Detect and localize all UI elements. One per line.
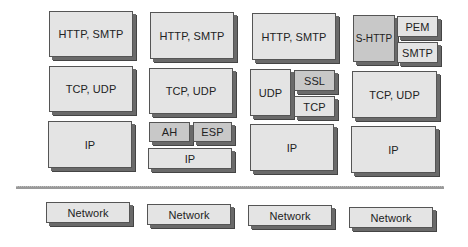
col2-transport-label: TCP, UDP xyxy=(166,85,217,97)
col3-network-layer: IP xyxy=(250,124,334,171)
col4-transport-layer: TCP, UDP xyxy=(352,71,437,118)
col4-link-layer: Network xyxy=(349,207,433,228)
col3-network-label: IP xyxy=(287,142,298,154)
col1-link-layer: Network xyxy=(46,202,130,223)
col2-link-label: Network xyxy=(168,209,209,221)
col1-transport-label: TCP, UDP xyxy=(66,83,117,95)
col3-application-label: HTTP, SMTP xyxy=(262,31,327,43)
col2-ah-label: AH xyxy=(162,126,177,138)
col3-tcp-label: TCP xyxy=(303,101,325,113)
col4-smtp-label: SMTP xyxy=(402,47,433,59)
col2-application-label: HTTP, SMTP xyxy=(160,30,225,42)
col4-link-label: Network xyxy=(370,212,411,224)
col4-pem-layer: PEM xyxy=(397,16,438,37)
col3-udp-layer: UDP xyxy=(250,69,291,116)
col3-link-layer: Network xyxy=(248,205,332,226)
col3-ssl-label: SSL xyxy=(304,75,325,87)
col4-shttp-layer: S-HTTP xyxy=(353,15,395,62)
col4-pem-label: PEM xyxy=(405,21,429,33)
col3-tcp-layer: TCP xyxy=(294,96,335,117)
col4-network-label: IP xyxy=(388,144,399,156)
col3-udp-label: UDP xyxy=(259,87,283,99)
col1-application-label: HTTP, SMTP xyxy=(59,28,124,40)
col1-network-label: IP xyxy=(85,139,96,151)
layer-divider-line xyxy=(16,186,444,189)
col3-application-layer: HTTP, SMTP xyxy=(252,13,336,60)
col4-transport-label: TCP, UDP xyxy=(369,89,420,101)
col3-link-label: Network xyxy=(269,210,310,222)
col2-ah-layer: AH xyxy=(149,122,190,142)
col4-shttp-label: S-HTTP xyxy=(356,33,393,44)
col2-application-layer: HTTP, SMTP xyxy=(150,12,234,59)
col2-network-layer: IP xyxy=(148,148,232,169)
col2-link-layer: Network xyxy=(147,204,231,225)
col1-network-layer: IP xyxy=(48,121,132,168)
col1-link-label: Network xyxy=(67,207,108,219)
col4-smtp-layer: SMTP xyxy=(397,42,438,63)
col2-esp-label: ESP xyxy=(201,126,223,138)
col2-network-label: IP xyxy=(185,153,196,165)
col3-ssl-layer: SSL xyxy=(294,70,335,91)
col2-transport-layer: TCP, UDP xyxy=(149,68,233,114)
col2-esp-layer: ESP xyxy=(193,122,232,142)
col1-application-layer: HTTP, SMTP xyxy=(49,11,133,57)
col1-transport-layer: TCP, UDP xyxy=(49,66,133,112)
col4-network-layer: IP xyxy=(351,126,436,173)
